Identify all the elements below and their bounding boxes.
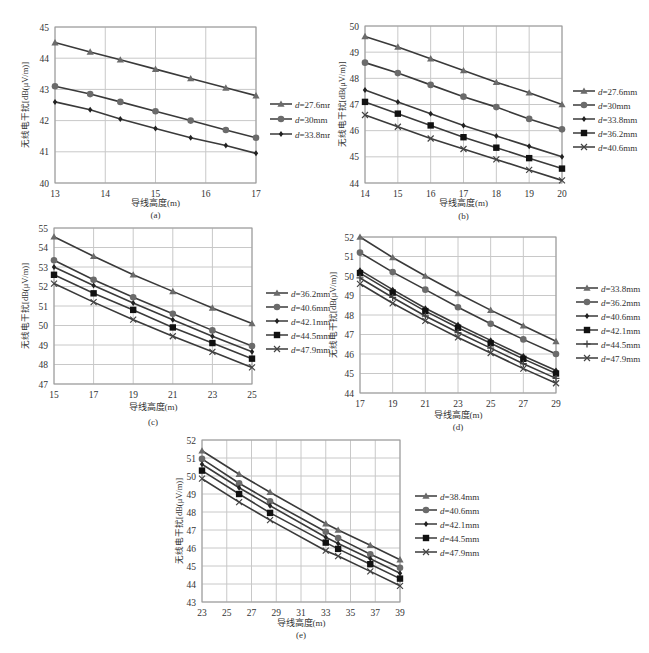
diamond-marker (171, 317, 175, 323)
x-tick-label: 20 (557, 189, 567, 199)
y-tick-label: 52 (39, 282, 49, 292)
legend-label: d=30mm (598, 101, 631, 111)
square-marker (170, 324, 176, 330)
x-tick-label: 13 (50, 189, 60, 199)
y-tick-label: 49 (350, 48, 360, 58)
square-marker (367, 561, 373, 567)
square-marker (395, 110, 401, 116)
x-axis-label: 导线高度(m) (434, 409, 483, 420)
x-tick-label: 17 (89, 390, 99, 400)
legend-item: d=38.4mm (415, 492, 479, 502)
x-axis-label: 导线高度(m) (439, 197, 488, 208)
y-tick-label: 49 (39, 341, 49, 351)
legend-item: d=33.8mm (576, 284, 640, 294)
circle-marker (199, 456, 206, 463)
y-axis-ticks: 404142434445 (40, 23, 50, 189)
x-axis-ticks: 232527293133353739 (197, 608, 405, 618)
legend-label: d=33.8mm (598, 115, 637, 125)
y-tick-label: 48 (39, 360, 49, 370)
cross-marker (236, 499, 242, 505)
y-tick-label: 52 (187, 436, 197, 446)
square-marker (209, 340, 215, 346)
x-tick-label: 29 (551, 399, 561, 409)
diamond-legend-icon (582, 116, 586, 122)
series-d-44-5mm (51, 272, 255, 362)
diamond-marker (363, 87, 367, 93)
legend-label: d=42.1mm (440, 520, 479, 530)
triangle-marker (361, 33, 368, 39)
circle-marker (526, 116, 533, 123)
circle-marker (460, 93, 467, 100)
subfigure-caption: (e) (296, 630, 306, 640)
x-tick-label: 21 (421, 399, 431, 409)
y-tick-label: 41 (40, 147, 50, 157)
legend: d=33.8mmd=36.2mmd=40.6mmd=42.1mmd=44.5mm… (576, 284, 640, 364)
y-tick-label: 51 (345, 252, 355, 262)
legend-label: d=47.9mm (601, 354, 640, 364)
series-d-42-1mm (52, 264, 254, 355)
legend-label: d=47.9mm (440, 548, 479, 558)
legend-label: d=33.8mm (601, 284, 640, 294)
x-tick-label: 14 (101, 189, 111, 199)
cross-marker (267, 517, 273, 523)
triangle-marker (389, 254, 396, 260)
circle-legend-icon (581, 102, 588, 109)
y-tick-label: 48 (350, 74, 360, 84)
cross-marker (335, 553, 341, 559)
square-marker (267, 510, 273, 516)
legend-item: d=30mm (573, 101, 631, 111)
chart-panel-e: 43444546474849505152232527293133353739导线… (150, 430, 500, 653)
legend-label: d=30mm (295, 115, 328, 125)
x-tick-label: 23 (197, 608, 207, 618)
legend-item: d=44.5mm (415, 534, 479, 544)
triangle-marker (50, 233, 57, 239)
y-tick-label: 50 (187, 472, 197, 482)
diamond-marker (396, 99, 400, 105)
circle-marker (87, 91, 94, 98)
y-tick-label: 42 (40, 116, 50, 126)
square-marker (236, 491, 242, 497)
x-tick-label: 25 (486, 399, 496, 409)
x-tick-label: 27 (247, 608, 257, 618)
diamond-marker (250, 349, 254, 355)
y-tick-label: 46 (187, 544, 197, 554)
y-tick-label: 43 (187, 598, 197, 608)
x-tick-label: 23 (208, 390, 218, 400)
x-tick-label: 19 (388, 399, 398, 409)
diamond-marker (527, 143, 531, 149)
diamond-marker (210, 333, 214, 339)
chart-panel-d: 44454647484950515217192123252729导线高度(m)无… (320, 225, 649, 445)
legend-label: d=38.4mm (440, 492, 479, 502)
y-tick-label: 54 (39, 243, 49, 253)
legend-item: d=42.1mm (415, 520, 479, 530)
circle-marker (51, 257, 58, 264)
square-marker (526, 155, 532, 161)
diamond-marker (188, 135, 192, 141)
x-tick-label: 14 (360, 189, 370, 199)
circle-marker (209, 327, 216, 334)
diamond-legend-icon (585, 313, 589, 319)
square-legend-icon (423, 535, 429, 541)
y-tick-label: 47 (350, 100, 360, 110)
circle-marker (357, 249, 364, 256)
circle-marker (455, 304, 462, 311)
legend-item: d=36.2mm (576, 298, 640, 308)
square-legend-icon (581, 130, 587, 136)
chart-panel-a: 4041424344451314151617导线高度(m)无线电干扰[dB(μV… (0, 0, 330, 225)
diamond-marker (324, 534, 328, 540)
legend-label: d=40.6mm (598, 143, 637, 153)
x-tick-label: 19 (524, 189, 534, 199)
diamond-marker (336, 541, 340, 547)
diamond-marker (461, 122, 465, 128)
y-tick-label: 47 (187, 526, 197, 536)
circle-marker (422, 286, 429, 293)
y-tick-label: 53 (39, 263, 49, 273)
cross-marker (367, 568, 373, 574)
x-tick-label: 37 (371, 608, 381, 618)
circle-marker (335, 535, 342, 542)
legend: d=38.4mmd=40.6mmd=42.1mmd=44.5mmd=47.9mm (415, 492, 479, 558)
y-tick-label: 45 (350, 152, 360, 162)
legend-label: d=27.6mm (598, 87, 637, 97)
diamond-marker (131, 300, 135, 306)
diamond-legend-icon (424, 521, 428, 527)
